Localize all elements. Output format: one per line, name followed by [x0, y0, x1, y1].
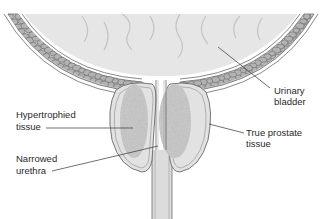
- label-hypertrophied-tissue-line1: Hypertrophied: [16, 109, 76, 120]
- label-narrowed-urethra-line2: urethra: [16, 165, 47, 176]
- prostate-diagram: Urinary bladder Hypertrophied tissue Tru…: [0, 0, 322, 219]
- label-true-prostate-tissue: True prostate tissue: [246, 127, 305, 149]
- label-true-prostate-tissue-line2: tissue: [246, 138, 271, 149]
- label-hypertrophied-tissue-line2: tissue: [16, 121, 41, 132]
- muscle-cell: [15, 14, 21, 20]
- muscle-cell: [304, 14, 310, 20]
- label-true-prostate-tissue-line1: True prostate: [246, 127, 302, 138]
- label-urinary-bladder-line2: bladder: [274, 96, 306, 107]
- leader-true-prostate-tissue: [209, 124, 244, 133]
- muscle-cell: [11, 19, 18, 25]
- label-hypertrophied-tissue: Hypertrophied tissue: [16, 109, 78, 132]
- label-urinary-bladder-line1: Urinary: [274, 85, 305, 96]
- urethra: [152, 150, 172, 219]
- muscle-cell: [8, 14, 14, 19]
- label-narrowed-urethra: Narrowed urethra: [16, 153, 60, 176]
- label-narrowed-urethra-line1: Narrowed: [16, 153, 57, 164]
- prostate-left-lobe: [110, 82, 156, 172]
- label-urinary-bladder: Urinary bladder: [274, 85, 307, 107]
- urinary-bladder: [4, 14, 318, 96]
